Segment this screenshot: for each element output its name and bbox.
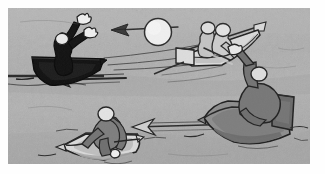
margin-left [0, 0, 8, 174]
rowboats-scene [8, 8, 310, 164]
margin-bottom [0, 164, 325, 174]
illustration-frame [8, 8, 310, 164]
paper-grain-overlay [8, 8, 310, 164]
margin-top [0, 0, 325, 8]
margin-right [310, 0, 325, 174]
illustration-stage [0, 0, 325, 174]
